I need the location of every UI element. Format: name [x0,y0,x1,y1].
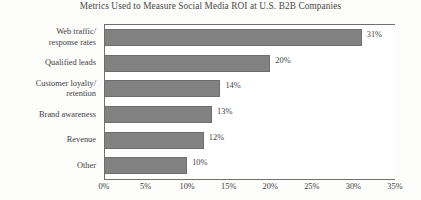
bar-row: 14% [104,76,395,102]
y-axis-category-labels: Web traffic/response ratesQualified lead… [0,25,100,179]
x-axis-tick-labels: 0%5%10%15%20%25%30%35% [104,182,395,196]
category-label-line: Other [0,161,96,172]
x-tick-label: 35% [387,182,402,191]
category-label: Other [0,161,100,172]
category-label: Qualified leads [0,58,100,69]
bar-value-label: 13% [217,107,232,116]
bar-row: 10% [104,153,395,179]
chart-title: Metrics Used to Measure Social Media ROI… [0,1,421,11]
bar-value-label: 31% [367,30,382,39]
x-tick-label: 10% [179,182,194,191]
x-tick-label: 30% [346,182,361,191]
bar-value-label: 14% [225,81,240,90]
bar[interactable] [104,157,187,174]
category-label: Revenue [0,135,100,146]
bar-series: 31%20%14%13%12%10% [104,25,395,179]
category-label-line: Brand awareness [0,110,96,121]
x-tick-label: 25% [304,182,319,191]
bar-value-label: 10% [192,158,207,167]
x-tick-label: 0% [98,182,109,191]
bar[interactable] [104,29,362,46]
chart-container: Metrics Used to Measure Social Media ROI… [0,0,421,200]
category-label-line: Qualified leads [0,58,96,69]
category-label-line: Web traffic/ [0,27,96,38]
bar-row: 12% [104,128,395,154]
bar-row: 13% [104,102,395,128]
category-label-line: Customer loyalty/ [0,79,96,90]
bar[interactable] [104,132,204,149]
bar-row: 20% [104,51,395,77]
bar[interactable] [104,106,212,123]
x-tick-label: 20% [263,182,278,191]
category-label: Web traffic/response rates [0,27,100,48]
bar[interactable] [104,80,220,97]
category-label-line: Revenue [0,135,96,146]
bar-value-label: 12% [209,133,224,142]
bar[interactable] [104,55,270,72]
bar-row: 31% [104,25,395,51]
bar-value-label: 20% [275,56,290,65]
category-label-line: response rates [0,38,96,49]
category-label-line: retention [0,89,96,100]
category-label: Customer loyalty/retention [0,79,100,100]
x-tick-label: 5% [140,182,151,191]
x-tick-label: 15% [221,182,236,191]
category-label: Brand awareness [0,110,100,121]
